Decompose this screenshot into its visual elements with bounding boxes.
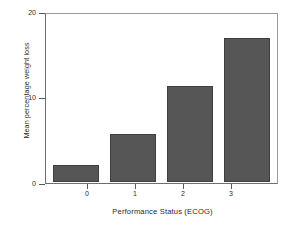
x-tick-mark-3 — [231, 184, 232, 189]
bar-ecog-0[interactable] — [53, 165, 99, 182]
plot-area — [45, 13, 278, 184]
bar-series — [47, 15, 276, 182]
bar-ecog-3[interactable] — [224, 38, 270, 182]
x-tick-mark-2 — [183, 184, 184, 189]
bar-ecog-2[interactable] — [167, 86, 213, 182]
bar-ecog-1[interactable] — [110, 134, 156, 182]
x-tick-label-3: 3 — [223, 190, 239, 197]
bar-slot-0 — [47, 15, 104, 182]
bar-slot-1 — [104, 15, 161, 182]
x-tick-label-2: 2 — [175, 190, 191, 197]
y-tick-label-0: 0 — [14, 180, 36, 187]
x-axis-title: Performance Status (ECOG) — [45, 207, 280, 216]
y-tick-label-10: 10 — [14, 94, 36, 101]
y-tick-label-20: 20 — [14, 9, 36, 16]
bar-slot-3 — [219, 15, 276, 182]
x-tick-mark-1 — [135, 184, 136, 189]
bar-slot-2 — [162, 15, 219, 182]
y-axis-title: Mean percentage weight loss — [20, 0, 34, 183]
x-tick-mark-0 — [87, 184, 88, 189]
x-tick-label-0: 0 — [79, 190, 95, 197]
y-tick-mark-0 — [39, 184, 45, 185]
x-tick-label-1: 1 — [127, 190, 143, 197]
bar-chart-figure: Mean percentage weight loss 20 10 0 0 1 — [0, 0, 293, 232]
